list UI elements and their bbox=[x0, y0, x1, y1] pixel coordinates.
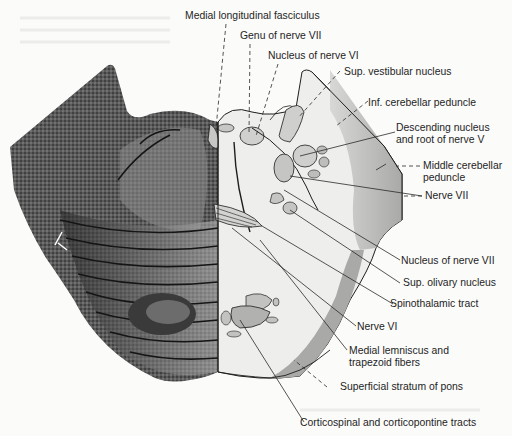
label-superficial-stratum-of-pons: Superficial stratum of pons bbox=[340, 381, 463, 393]
label-corticospinal-corticopontine-tracts: Corticospinal and corticopontine tracts bbox=[300, 417, 476, 429]
label-medial-lemniscus-line1: Medial lemniscus and bbox=[349, 345, 449, 357]
label-medial-longitudinal-fasciculus: Medial longitudinal fasciculus bbox=[185, 10, 320, 22]
label-nerve-vi: Nerve VI bbox=[357, 321, 397, 333]
label-spinothalamic-tract: Spinothalamic tract bbox=[390, 298, 478, 310]
label-sup-olivary-nucleus: Sup. olivary nucleus bbox=[403, 277, 496, 289]
label-genu-nerve-vii: Genu of nerve VII bbox=[240, 30, 321, 42]
label-inf-cerebellar-peduncle: Inf. cerebellar peduncle bbox=[368, 97, 476, 109]
label-sup-vestibular-nucleus: Sup. vestibular nucleus bbox=[344, 66, 451, 78]
label-nerve-vii: Nerve VII bbox=[425, 190, 468, 202]
label-nucleus-nerve-vii: Nucleus of nerve VII bbox=[401, 255, 495, 267]
label-middle-cerebellar-line2: peduncle bbox=[423, 172, 502, 184]
label-middle-cerebellar-peduncle: Middle cerebellar peduncle bbox=[423, 160, 502, 184]
left-half-stained-section bbox=[10, 65, 218, 382]
label-medial-lemniscus-line2: trapezoid fibers bbox=[349, 357, 449, 369]
label-descending-nucleus-root-nerve-v: Descending nucleus and root of nerve V bbox=[396, 122, 490, 146]
label-middle-cerebellar-line1: Middle cerebellar bbox=[423, 160, 502, 172]
label-descending-nucleus-line2: and root of nerve V bbox=[396, 134, 490, 146]
label-descending-nucleus-line1: Descending nucleus bbox=[396, 122, 490, 134]
label-medial-lemniscus-trapezoid-fibers: Medial lemniscus and trapezoid fibers bbox=[349, 345, 449, 369]
label-nucleus-nerve-vi: Nucleus of nerve VI bbox=[268, 50, 359, 62]
